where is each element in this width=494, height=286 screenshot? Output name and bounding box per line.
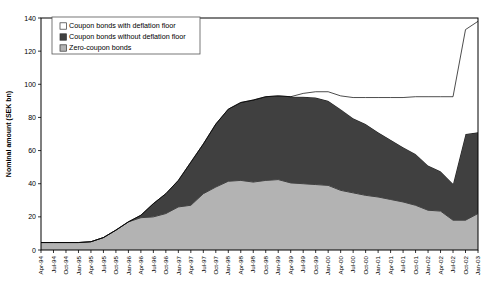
x-tick-label: Apr-99	[287, 255, 294, 274]
x-tick-label: Jan-96	[125, 255, 132, 274]
y-tick-label: 140	[24, 15, 36, 22]
x-tick-label: Jul-98	[249, 255, 256, 272]
x-tick-label: Apr-96	[137, 255, 144, 274]
x-tick-label: Jan-00	[324, 255, 331, 274]
x-tick-label: Apr-02	[437, 255, 444, 274]
x-tick-label: Jul-95	[100, 255, 107, 272]
x-tick-label: Jul-96	[150, 255, 157, 272]
y-tick-label: 80	[28, 114, 36, 121]
y-tick-label: 0	[32, 247, 36, 254]
x-tick-label: Oct-97	[212, 255, 219, 274]
x-tick-label: Jul-97	[200, 255, 207, 272]
x-tick-label: Oct-99	[312, 255, 319, 274]
x-tick-label: Jul-99	[299, 255, 306, 272]
x-tick-label: Oct-94	[62, 255, 69, 274]
x-tick-label: Jul-01	[399, 255, 406, 272]
y-tick-label: 40	[28, 180, 36, 187]
x-tick-label: Jul-02	[449, 255, 456, 272]
y-tick-label: 20	[28, 213, 36, 220]
legend-swatch-2	[60, 45, 66, 51]
legend-label-1: Coupon bonds without deflation floor	[69, 32, 186, 41]
chart-container: 020406080100120140 Apr-94Jul-94Oct-94Jan…	[0, 0, 494, 286]
x-tick-label: Oct-01	[412, 255, 419, 274]
x-tick-label: Jul-00	[349, 255, 356, 272]
y-tick-label: 60	[28, 147, 36, 154]
x-tick-label: Jan-98	[224, 255, 231, 274]
x-tick-label: Oct-95	[112, 255, 119, 274]
x-tick-label: Apr-95	[87, 255, 94, 274]
x-tick-label: Jul-94	[50, 255, 57, 272]
x-tick-label: Apr-00	[337, 255, 344, 274]
legend-swatch-0	[60, 23, 66, 29]
x-tick-label: Oct-96	[162, 255, 169, 274]
legend-label-2: Zero-coupon bonds	[69, 43, 132, 52]
x-tick-label: Apr-01	[387, 255, 394, 274]
legend-label-0: Coupon bonds with deflation floor	[69, 21, 176, 30]
chart-legend: Coupon bonds with deflation floorCoupon …	[52, 17, 200, 54]
y-tick-label: 120	[24, 48, 36, 55]
stacked-area-chart: 020406080100120140 Apr-94Jul-94Oct-94Jan…	[0, 0, 494, 286]
x-tick-label: Apr-97	[187, 255, 194, 274]
x-tick-label: Oct-00	[362, 255, 369, 274]
x-tick-label: Jan-01	[374, 255, 381, 274]
x-tick-label: Jan-97	[175, 255, 182, 274]
y-tick-label: 100	[24, 81, 36, 88]
x-tick-label: Oct-02	[462, 255, 469, 274]
y-axis-label: Nominal amount (SEK bn)	[5, 91, 13, 177]
x-tick-label: Apr-94	[37, 255, 44, 274]
x-tick-label: Jan-02	[424, 255, 431, 274]
x-tick-label: Apr-98	[237, 255, 244, 274]
legend-swatch-1	[60, 34, 66, 40]
x-tick-label: Jan-95	[75, 255, 82, 274]
x-tick-label: Jan-99	[274, 255, 281, 274]
x-tick-label: Oct-98	[262, 255, 269, 274]
x-tick-label: Jan-03	[474, 255, 481, 274]
